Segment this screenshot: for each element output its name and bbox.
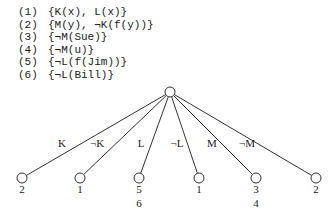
- leaf-node: [311, 173, 321, 183]
- leaf-label: 3: [253, 183, 259, 195]
- leaf-label: 1: [196, 183, 202, 195]
- edge-label: ¬M: [239, 137, 255, 149]
- leaf-node: [75, 173, 85, 183]
- leaf-label: 4: [253, 197, 259, 209]
- edge-label: L: [138, 137, 145, 149]
- leaf-label: 6: [136, 197, 142, 209]
- root-node: [165, 87, 175, 97]
- leaf-label: 5: [136, 183, 142, 195]
- tree-edge: [174, 96, 253, 175]
- leaf-label: 2: [19, 183, 25, 195]
- leaf-label: 2: [313, 183, 319, 195]
- tree-edge: [141, 97, 169, 174]
- edge-label: ¬L: [171, 137, 184, 149]
- edge-label: ¬K: [90, 137, 104, 149]
- leaf-node: [194, 173, 204, 183]
- edge-label: M: [207, 137, 217, 149]
- tree-diagram: [0, 0, 334, 221]
- leaf-node: [251, 173, 261, 183]
- edge-label: K: [58, 137, 66, 149]
- tree-edge: [174, 95, 311, 176]
- leaf-label: 1: [77, 183, 83, 195]
- leaf-node: [17, 173, 27, 183]
- leaf-node: [134, 173, 144, 183]
- tree-edge: [172, 97, 198, 174]
